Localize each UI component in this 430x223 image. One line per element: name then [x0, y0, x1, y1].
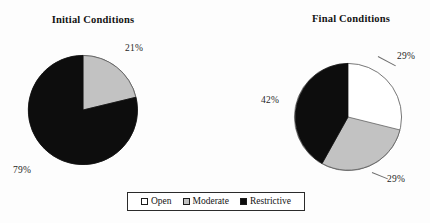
- chart-title-final: Final Conditions: [258, 13, 430, 24]
- legend-entry-open: Open: [141, 197, 172, 207]
- pie-chart-final: [294, 63, 402, 171]
- legend-label-open: Open: [151, 197, 172, 207]
- legend-entry-restrictive: Restrictive: [240, 197, 291, 207]
- pie-initial-label-moderate: 21%: [125, 43, 143, 53]
- leader-line-final-moderate: [372, 172, 388, 179]
- chart-title-initial: Initial Conditions: [0, 14, 186, 25]
- legend-swatch-moderate-icon: [183, 198, 190, 205]
- legend-label-restrictive: Restrictive: [250, 197, 291, 207]
- chart-legend: Open Moderate Restrictive: [127, 192, 305, 211]
- pie-chart-figure: Initial Conditions 21% 79% Final Conditi…: [0, 0, 430, 223]
- legend-label-moderate: Moderate: [193, 197, 229, 207]
- pie-chart-initial: [28, 55, 138, 165]
- pie-initial-label-restrictive: 79%: [13, 165, 31, 175]
- legend-swatch-open-icon: [141, 198, 148, 205]
- pie-final-label-open: 29%: [397, 51, 415, 61]
- legend-entry-moderate: Moderate: [183, 197, 229, 207]
- pie-final-svg: [294, 63, 402, 171]
- pie-initial-svg: [28, 55, 138, 165]
- pie-final-label-moderate: 29%: [387, 174, 405, 184]
- pie-final-label-restrictive: 42%: [261, 95, 279, 105]
- legend-swatch-restrictive-icon: [240, 198, 247, 205]
